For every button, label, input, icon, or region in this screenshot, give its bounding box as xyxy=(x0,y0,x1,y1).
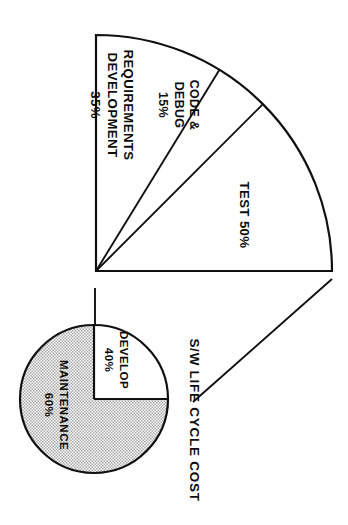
figure-caption: S/W LIFE CYCLE COST xyxy=(187,338,202,501)
requirements-line1: REQUIREMENTS xyxy=(121,49,136,160)
code-debug-line2: DEBUG xyxy=(172,82,186,129)
label-test: TEST 50% xyxy=(237,182,252,249)
leader-line-diagonal xyxy=(193,279,332,402)
test-label: TEST 50% xyxy=(237,182,252,249)
code-debug-line1: CODE & xyxy=(187,80,201,131)
develop-percent: 40% xyxy=(103,348,116,372)
life-cycle-cost-pie: MAINTENANCE 60% DEVELOP 40% xyxy=(20,325,168,473)
caption-text: S/W LIFE CYCLE COST xyxy=(187,338,202,501)
maintenance-label: MAINTENANCE xyxy=(58,360,71,450)
software-life-cycle-cost-figure: REQUIREMENTS DEVELOPMENT 35% CODE & DEBU… xyxy=(0,0,348,525)
diagram-canvas: REQUIREMENTS DEVELOPMENT 35% CODE & DEBU… xyxy=(0,0,348,525)
requirements-percent: 35% xyxy=(88,91,103,119)
requirements-line2: DEVELOPMENT xyxy=(105,53,120,158)
develop-label: DEVELOP xyxy=(118,331,131,389)
exploded-wedge-group: REQUIREMENTS DEVELOPMENT 35% CODE & DEBU… xyxy=(88,35,332,271)
maintenance-percent: 60% xyxy=(43,393,56,417)
code-debug-percent: 15% xyxy=(156,92,170,118)
